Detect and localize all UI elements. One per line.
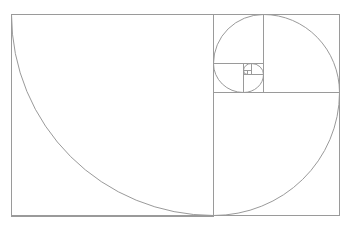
- fibonacci-square: [12, 15, 214, 217]
- fibonacci-squares: [12, 15, 340, 217]
- spiral-arc: [244, 75, 264, 93]
- spiral-arc: [252, 64, 264, 75]
- fibonacci-square: [214, 15, 264, 64]
- spiral-arcs: [12, 15, 340, 216]
- golden-spiral-svg: [0, 0, 353, 225]
- fibonacci-square: [214, 93, 340, 216]
- golden-spiral-diagram: [0, 0, 353, 225]
- spiral-arc: [244, 64, 252, 71]
- spiral-arc: [214, 64, 244, 93]
- spiral-arc: [12, 15, 214, 216]
- outer-rectangle: [12, 15, 340, 216]
- spiral-arc: [214, 93, 340, 216]
- spiral-arc: [264, 15, 340, 93]
- spiral-arc: [214, 15, 264, 64]
- fibonacci-square: [264, 15, 340, 93]
- spiral-arc: [244, 71, 248, 75]
